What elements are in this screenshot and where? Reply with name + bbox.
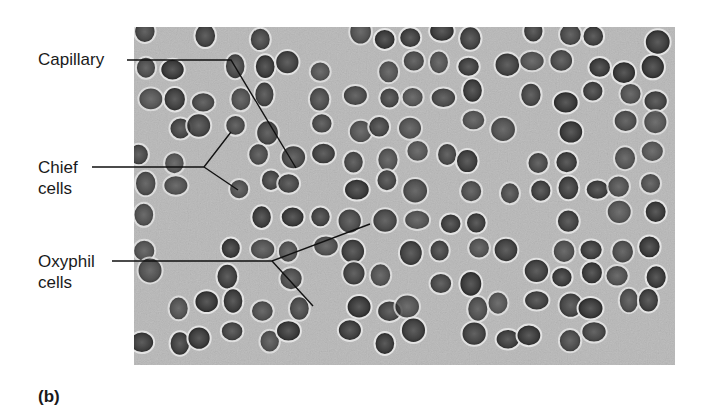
label-capillary: Capillary — [38, 49, 104, 70]
label-chief-line2: cells — [38, 178, 78, 199]
micrograph-image — [134, 27, 675, 365]
panel-label: (b) — [38, 387, 60, 406]
label-oxyphil-cells: Oxyphil cells — [38, 251, 95, 293]
label-capillary-text: Capillary — [38, 50, 104, 69]
label-oxyphil-line2: cells — [38, 272, 95, 293]
label-chief-cells: Chief cells — [38, 157, 78, 199]
label-oxyphil-line1: Oxyphil — [38, 251, 95, 272]
label-chief-line1: Chief — [38, 157, 78, 178]
